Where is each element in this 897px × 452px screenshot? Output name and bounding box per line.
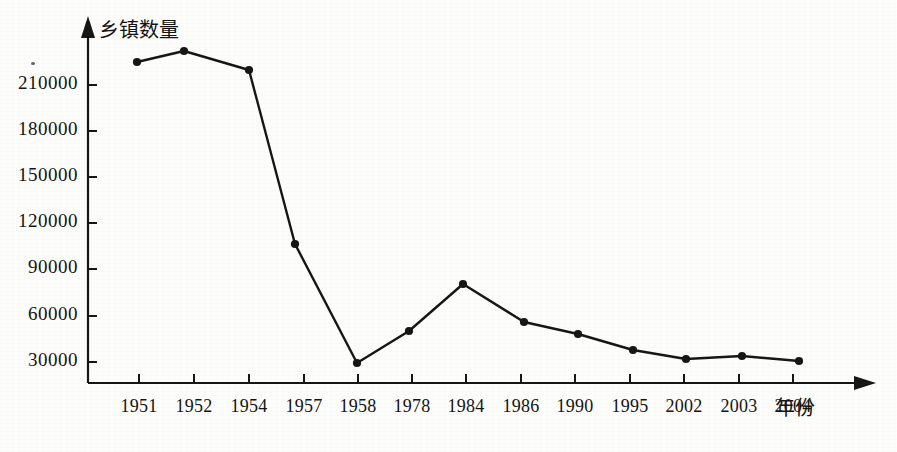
x-tick-label: 1952 [164, 396, 224, 417]
x-tick-label: 1995 [600, 396, 660, 417]
y-axis [81, 16, 95, 383]
data-point-marker [629, 346, 637, 354]
y-axis-title: 乡镇数量 [99, 14, 179, 43]
data-point-marker [291, 240, 299, 248]
x-axis-arrowhead [854, 376, 876, 390]
x-axis-title: 年份 [775, 392, 815, 421]
data-point-marker [459, 280, 467, 288]
chart-figure: 210000180000150000120000900006000030000 … [0, 0, 897, 452]
x-tick-label: 2003 [709, 396, 769, 417]
x-tick-label: 1990 [545, 396, 605, 417]
x-tick-label: 1978 [382, 396, 442, 417]
data-point-marker [405, 327, 413, 335]
y-tick-label: 30000 [0, 349, 78, 371]
x-tick-label: 1958 [328, 396, 388, 417]
y-tick-label: 90000 [0, 256, 78, 278]
data-point-marker [133, 58, 141, 66]
y-tick-label: 120000 [0, 210, 78, 232]
y-tick-label: 180000 [0, 118, 78, 140]
data-point-marker [795, 357, 803, 365]
x-tick-label: 1986 [491, 396, 551, 417]
y-tick-label: 150000 [0, 164, 78, 186]
y-axis-arrowhead [81, 16, 95, 38]
x-tick-label: 1984 [436, 396, 496, 417]
data-point-marker [180, 47, 188, 55]
x-axis-tickmarks [139, 374, 793, 383]
x-tick-label: 1951 [109, 396, 169, 417]
data-series-line [137, 51, 799, 363]
data-point-marker [738, 352, 746, 360]
y-tick-label: 60000 [0, 303, 78, 325]
y-axis-tickmarks [88, 85, 97, 362]
x-tick-label: 2002 [654, 396, 714, 417]
x-tick-label: 1954 [219, 396, 279, 417]
data-point-marker [682, 355, 690, 363]
data-point-marker [520, 318, 528, 326]
y-tick-label: 210000 [0, 72, 78, 94]
x-tick-label: 1957 [274, 396, 334, 417]
line-chart-plot [0, 0, 897, 452]
data-point-marker [245, 66, 253, 74]
x-axis [88, 376, 876, 390]
scan-artifact-speck [31, 62, 35, 65]
data-point-marker [574, 330, 582, 338]
data-point-markers [133, 47, 803, 367]
data-point-marker [353, 359, 361, 367]
